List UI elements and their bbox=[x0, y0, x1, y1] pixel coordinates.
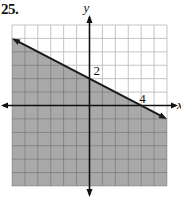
line-arrow-right-icon bbox=[159, 113, 167, 119]
inequality-graph bbox=[0, 0, 181, 197]
y-axis-arrow-up-icon bbox=[87, 15, 93, 23]
y-intercept-label: 2 bbox=[94, 63, 101, 79]
x-intercept-label: 4 bbox=[139, 91, 146, 107]
y-axis-label: y bbox=[84, 0, 90, 16]
y-axis-arrow-down-icon bbox=[87, 189, 93, 197]
x-axis-label: x bbox=[177, 97, 181, 113]
x-axis-arrow-left-icon bbox=[1, 103, 8, 109]
